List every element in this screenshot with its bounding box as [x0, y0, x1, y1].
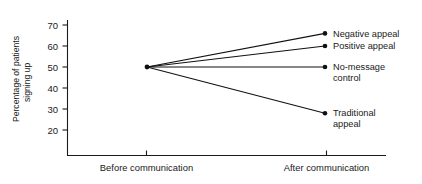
series-label-positive-appeal: Positive appeal — [333, 41, 395, 51]
series-line-negative-appeal — [147, 33, 325, 67]
series-line-traditional-appeal — [147, 67, 325, 113]
series-label-traditional-appeal-line2: appeal — [333, 119, 361, 129]
origin-marker — [145, 65, 150, 70]
y-axis-title-line2: signing up — [22, 63, 32, 102]
y-tick-label-20: 20 — [47, 125, 58, 136]
marker-positive-appeal — [323, 44, 328, 49]
series-label-no-message-control-line2: control — [333, 73, 361, 83]
series-markers — [323, 31, 328, 115]
marker-negative-appeal — [323, 31, 328, 36]
y-axis-ticks — [63, 25, 68, 130]
series-labels: Negative appeal Positive appeal No-messa… — [333, 29, 399, 129]
y-tick-label-70: 70 — [47, 20, 58, 31]
x-tick-label-before: Before communication — [100, 162, 193, 173]
y-tick-label-40: 40 — [47, 83, 58, 94]
chart-canvas: 70 60 50 40 30 20 Percentage of patients… — [0, 0, 422, 184]
series-line-positive-appeal — [147, 46, 325, 67]
series-label-no-message-control: No-message — [333, 62, 385, 72]
series-lines — [147, 33, 325, 113]
y-axis-title-line1: Percentage of patients — [11, 36, 21, 122]
y-axis-title: Percentage of patients signing up — [11, 36, 32, 122]
y-tick-label-30: 30 — [47, 104, 58, 115]
marker-traditional-appeal — [323, 111, 328, 116]
y-tick-label-60: 60 — [47, 41, 58, 52]
y-tick-label-50: 50 — [47, 62, 58, 73]
line-chart: 70 60 50 40 30 20 Percentage of patients… — [0, 0, 422, 184]
marker-no-message-control — [323, 65, 328, 70]
series-label-negative-appeal: Negative appeal — [333, 29, 399, 39]
x-axis-ticks — [147, 151, 327, 156]
series-label-traditional-appeal: Traditional — [333, 108, 376, 118]
y-axis-tick-labels: 70 60 50 40 30 20 — [47, 20, 58, 136]
x-tick-label-after: After communication — [284, 162, 369, 173]
x-axis-tick-labels: Before communication After communication — [100, 162, 369, 173]
